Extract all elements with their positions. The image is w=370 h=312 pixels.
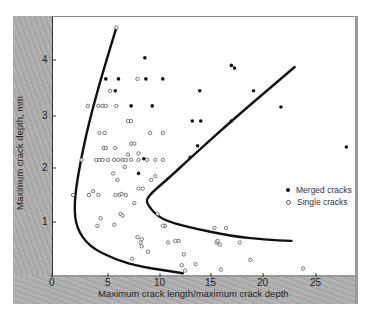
- single-crack-point: [97, 193, 100, 196]
- single-crack-point: [154, 174, 157, 177]
- merged-crack-point: [143, 56, 147, 60]
- single-crack-point: [194, 262, 197, 265]
- single-crack-point: [115, 104, 118, 107]
- single-crack-point: [117, 158, 120, 161]
- merged-crack-point: [161, 77, 165, 81]
- single-crack-point: [219, 268, 222, 271]
- merged-crack-point: [198, 89, 202, 93]
- single-crack-point: [104, 146, 107, 149]
- single-crack-point: [104, 104, 107, 107]
- merged-crack-point: [191, 119, 195, 123]
- single-crack-point: [133, 142, 136, 145]
- single-crack-point: [161, 131, 164, 134]
- legend-item-single: Single cracks: [286, 196, 352, 208]
- single-crack-point: [80, 158, 83, 161]
- single-crack-point: [115, 26, 118, 29]
- single-crack-point: [87, 193, 90, 196]
- single-crack-point: [124, 158, 127, 161]
- single-crack-point: [123, 165, 126, 168]
- single-crack-point: [166, 241, 169, 244]
- x-axis-label: Maximum crack length/maximum crack depth: [98, 288, 289, 299]
- open-circle-icon: [286, 200, 291, 205]
- merged-crack-point: [129, 104, 133, 108]
- single-crack-point: [154, 158, 157, 161]
- single-crack-point: [161, 224, 164, 227]
- single-crack-point: [216, 239, 219, 242]
- single-crack-point: [98, 131, 101, 134]
- filled-circle-icon: [286, 188, 290, 192]
- single-crack-point: [238, 241, 241, 244]
- single-crack-point: [183, 269, 186, 272]
- single-crack-point: [137, 187, 140, 190]
- single-crack-point: [126, 153, 129, 156]
- single-crack-point: [120, 192, 123, 195]
- single-crack-point: [111, 172, 114, 175]
- single-crack-point: [106, 158, 109, 161]
- x-tick-label: 0: [49, 277, 55, 288]
- single-crack-point: [140, 245, 143, 248]
- single-crack-point: [71, 193, 74, 196]
- legend-item-merged: Merged cracks: [286, 184, 352, 196]
- single-crack-point: [148, 131, 151, 134]
- boundary-curve: [147, 67, 295, 241]
- single-crack-point: [124, 193, 127, 196]
- x-tick-label: 25: [310, 277, 321, 288]
- single-crack-point: [113, 158, 116, 161]
- single-crack-point: [224, 226, 227, 229]
- x-tick-label: 15: [205, 277, 216, 288]
- scatter-plot: [0, 0, 370, 312]
- single-crack-point: [149, 178, 152, 181]
- single-crack-point: [174, 239, 177, 242]
- single-crack-point: [140, 238, 143, 241]
- merged-crack-point: [230, 119, 234, 123]
- y-axis-label: Maximum crack depth, mm: [14, 96, 25, 210]
- single-crack-point: [137, 152, 140, 155]
- merged-crack-point: [252, 89, 256, 93]
- single-crack-point: [86, 104, 89, 107]
- single-crack-point: [301, 267, 304, 270]
- single-crack-point: [129, 119, 132, 122]
- legend: Merged cracks Single cracks: [286, 184, 352, 208]
- figure: 4321 0510152025 Maximum crack depth, mm …: [0, 0, 370, 312]
- merged-crack-point: [117, 77, 121, 81]
- single-crack-point: [121, 214, 124, 217]
- merged-crack-point: [137, 172, 141, 176]
- single-crack-point: [96, 224, 99, 227]
- merged-crack-point: [104, 77, 108, 81]
- single-crack-point: [156, 212, 159, 215]
- merged-crack-point: [345, 145, 349, 149]
- single-crack-point: [161, 158, 164, 161]
- single-crack-point: [146, 250, 149, 253]
- merged-crack-point: [144, 77, 148, 81]
- y-tick-label: 4: [42, 54, 48, 65]
- single-crack-point: [103, 131, 106, 134]
- single-crack-point: [91, 190, 94, 193]
- merged-crack-point: [196, 144, 200, 148]
- y-tick-label: 3: [42, 110, 48, 121]
- single-crack-point: [101, 158, 104, 161]
- merged-crack-point: [150, 104, 154, 108]
- single-crack-point: [136, 77, 139, 80]
- single-crack-point: [249, 258, 252, 261]
- single-crack-point: [99, 217, 102, 220]
- single-crack-point: [114, 193, 117, 196]
- single-crack-point: [213, 226, 216, 229]
- merged-crack-point: [279, 105, 283, 109]
- y-tick-label: 2: [42, 162, 48, 173]
- single-crack-point: [141, 187, 144, 190]
- merged-crack-point: [188, 155, 192, 159]
- single-crack-point: [182, 253, 185, 256]
- single-crack-point: [108, 89, 111, 92]
- x-tick-label: 20: [257, 277, 268, 288]
- y-tick-label: 1: [42, 216, 48, 227]
- single-crack-point: [145, 158, 148, 161]
- single-crack-point: [114, 146, 117, 149]
- legend-label-single: Single cracks: [297, 196, 348, 208]
- merged-crack-point: [230, 64, 234, 68]
- single-crack-point: [218, 243, 221, 246]
- x-tick-label: 10: [154, 277, 165, 288]
- x-tick-label: 5: [105, 277, 111, 288]
- merged-crack-point: [114, 89, 118, 93]
- single-crack-point: [136, 235, 139, 238]
- single-crack-point: [129, 158, 132, 161]
